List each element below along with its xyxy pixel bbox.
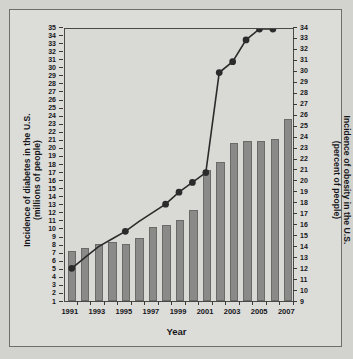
y-tick-label-left-5: 5 — [35, 265, 56, 272]
y-tick-label-left-12: 12 — [35, 209, 56, 216]
y-tick-left-17 — [59, 172, 63, 173]
y-tick-label-left-21: 21 — [35, 136, 56, 143]
y-tick-label-left-25: 25 — [35, 104, 56, 111]
y-tick-label-right-23: 23 — [300, 144, 320, 151]
x-tick-1993 — [104, 301, 105, 305]
y-tick-label-right-26: 26 — [300, 111, 320, 118]
y-tick-right-25 — [293, 126, 297, 127]
y-tick-label-left-23: 23 — [35, 120, 56, 127]
y-axis-right-title: Incidence of obesity in the U.S. (percen… — [332, 80, 352, 280]
y-tick-left-1 — [59, 301, 63, 302]
y-tick-label-left-9: 9 — [35, 233, 56, 240]
y-tick-right-26 — [293, 115, 297, 116]
y-tick-label-right-30: 30 — [300, 67, 320, 74]
y-tick-left-19 — [59, 156, 63, 157]
y-tick-label-right-22: 22 — [300, 155, 320, 162]
y-tick-left-33 — [59, 43, 63, 44]
y-tick-left-7 — [59, 253, 63, 254]
y-tick-right-22 — [293, 159, 297, 160]
y-tick-label-right-13: 13 — [300, 254, 320, 261]
y-tick-label-right-18: 18 — [300, 199, 320, 206]
y-axis-right-title-line2: (percent of people) — [332, 141, 342, 219]
chart-figure: Incidence of diabetes in the U.S. (milli… — [0, 0, 353, 359]
y-tick-left-31 — [59, 59, 63, 60]
y-tick-left-21 — [59, 140, 63, 141]
y-tick-right-33 — [293, 38, 297, 39]
y-tick-label-left-31: 31 — [35, 56, 56, 63]
y-tick-right-28 — [293, 93, 297, 94]
y-tick-label-right-20: 20 — [300, 177, 320, 184]
y-tick-label-right-15: 15 — [300, 232, 320, 239]
marker-2003 — [229, 58, 236, 65]
y-tick-left-22 — [59, 132, 63, 133]
y-tick-right-34 — [293, 27, 297, 28]
x-tick-label-1991: 1991 — [56, 307, 84, 316]
x-tick-label-2007: 2007 — [272, 307, 300, 316]
marker-2004 — [243, 37, 250, 44]
x-tick-2006 — [279, 301, 280, 305]
y-tick-left-29 — [59, 75, 63, 76]
y-tick-left-6 — [59, 261, 63, 262]
y-tick-right-10 — [293, 290, 297, 291]
y-tick-right-19 — [293, 191, 297, 192]
x-tick-1995 — [131, 301, 132, 305]
y-tick-label-left-8: 8 — [35, 241, 56, 248]
y-tick-left-34 — [59, 35, 63, 36]
x-tick-label-2003: 2003 — [218, 307, 246, 316]
y-tick-right-18 — [293, 202, 297, 203]
y-axis-right-title-line1: Incidence of obesity in the U.S. — [342, 116, 352, 245]
x-tick-1991 — [77, 301, 78, 305]
y-tick-left-16 — [59, 180, 63, 181]
y-tick-label-left-26: 26 — [35, 96, 56, 103]
y-tick-right-30 — [293, 71, 297, 72]
y-tick-right-21 — [293, 169, 297, 170]
y-tick-label-left-29: 29 — [35, 72, 56, 79]
x-axis-title: Year — [0, 326, 353, 337]
marker-2001 — [202, 169, 209, 176]
x-tick-label-1993: 1993 — [83, 307, 111, 316]
x-tick-2000 — [198, 301, 199, 305]
y-tick-label-left-15: 15 — [35, 185, 56, 192]
x-tick-2003 — [239, 301, 240, 305]
y-tick-label-right-19: 19 — [300, 188, 320, 195]
y-tick-label-right-32: 32 — [300, 45, 320, 52]
y-tick-label-right-28: 28 — [300, 89, 320, 96]
x-tick-label-1999: 1999 — [164, 307, 192, 316]
y-tick-left-28 — [59, 83, 63, 84]
y-tick-label-left-18: 18 — [35, 161, 56, 168]
y-tick-label-right-16: 16 — [300, 221, 320, 228]
y-tick-label-left-2: 2 — [35, 289, 56, 296]
marker-1998 — [162, 201, 169, 208]
x-tick-label-1995: 1995 — [110, 307, 138, 316]
y-tick-right-17 — [293, 213, 297, 214]
x-tick-1996 — [144, 301, 145, 305]
y-tick-label-right-29: 29 — [300, 78, 320, 85]
y-tick-label-left-34: 34 — [35, 32, 56, 39]
x-tick-1999 — [185, 301, 186, 305]
marker-1991 — [68, 265, 75, 272]
y-tick-right-32 — [293, 49, 297, 50]
y-tick-left-14 — [59, 196, 63, 197]
y-tick-label-left-27: 27 — [35, 88, 56, 95]
x-tick-2004 — [252, 301, 253, 305]
x-tick-label-1997: 1997 — [137, 307, 165, 316]
y-tick-left-3 — [59, 285, 63, 286]
marker-1995 — [122, 228, 129, 235]
y-tick-left-5 — [59, 269, 63, 270]
y-tick-label-right-27: 27 — [300, 100, 320, 107]
y-tick-left-32 — [59, 51, 63, 52]
y-tick-right-15 — [293, 235, 297, 236]
marker-1999 — [176, 189, 183, 196]
y-tick-left-23 — [59, 124, 63, 125]
y-tick-label-right-25: 25 — [300, 122, 320, 129]
y-tick-left-35 — [59, 27, 63, 28]
y-tick-label-left-33: 33 — [35, 40, 56, 47]
y-tick-label-left-11: 11 — [35, 217, 56, 224]
y-tick-left-13 — [59, 204, 63, 205]
chart-frame: Incidence of diabetes in the U.S. (milli… — [9, 9, 342, 347]
y-tick-right-31 — [293, 60, 297, 61]
y-tick-label-left-17: 17 — [35, 169, 56, 176]
y-tick-label-left-30: 30 — [35, 64, 56, 71]
y-tick-label-left-1: 1 — [35, 298, 56, 305]
y-tick-label-right-17: 17 — [300, 210, 320, 217]
